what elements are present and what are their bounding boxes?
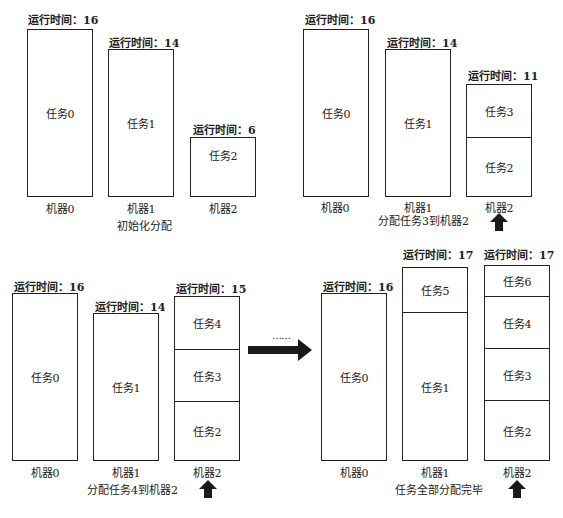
runtime-label: 运行时间：16 [28, 11, 98, 27]
machine-2-column: 任务2 [190, 137, 256, 197]
task-block: 任务1 [403, 312, 467, 460]
machine-0-column: 任务0 [303, 29, 369, 197]
task-block: 任务6 [485, 266, 549, 296]
machine-label: 机器0 [15, 464, 75, 480]
task-block: 任务2 [467, 137, 531, 196]
up-arrow-icon [508, 480, 526, 498]
panel-caption: 分配任务4到机器2 [87, 481, 178, 497]
task-block: 任务4 [175, 297, 239, 349]
machine-label: 机器1 [405, 464, 465, 480]
runtime-label: 运行时间：11 [468, 67, 538, 83]
machine-1-column: 任务1 [385, 49, 451, 197]
task-block: 任务3 [175, 349, 239, 401]
machine-2-column: 任务3 任务2 [466, 84, 532, 197]
task-block: 任务3 [467, 85, 531, 137]
runtime-label: 运行时间：16 [305, 11, 375, 27]
machine-2-column: 任务6 任务4 任务3 任务2 [484, 265, 550, 461]
task-block: 任务0 [28, 30, 92, 196]
machine-label: 机器1 [111, 200, 171, 216]
runtime-label: 运行时间：14 [387, 34, 457, 50]
runtime-label: 运行时间：17 [403, 246, 473, 262]
runtime-label: 运行时间：14 [95, 298, 165, 314]
right-arrow-icon [248, 339, 312, 361]
machine-label: 机器2 [193, 200, 253, 216]
task-block: 任务0 [13, 294, 77, 460]
runtime-label: 运行时间：6 [193, 121, 256, 137]
up-arrow-icon [490, 213, 508, 231]
panel-caption: 分配任务3到机器2 [378, 212, 469, 228]
machine-2-column: 任务4 任务3 任务2 [174, 296, 240, 461]
machine-0-column: 任务0 [12, 293, 78, 461]
panel-caption: 任务全部分配完毕 [395, 481, 483, 497]
machine-1-column: 任务1 [108, 49, 174, 197]
runtime-label: 运行时间：16 [323, 278, 393, 294]
machine-0-column: 任务0 [27, 29, 93, 197]
runtime-label: 运行时间：17 [484, 246, 554, 262]
machine-label: 机器0 [305, 199, 365, 215]
task-block: 任务5 [403, 268, 467, 312]
task-block: 任务3 [485, 348, 549, 400]
task-block: 任务1 [94, 314, 158, 460]
machine-1-column: 任务5 任务1 [402, 267, 468, 461]
machine-1-column: 任务1 [93, 313, 159, 461]
machine-label: 机器2 [487, 464, 547, 480]
machine-0-column: 任务0 [321, 293, 387, 461]
task-block: 任务2 [485, 400, 549, 460]
runtime-label: 运行时间：14 [109, 34, 179, 50]
task-block: 任务1 [109, 50, 173, 196]
runtime-label: 运行时间：15 [176, 280, 246, 296]
runtime-label: 运行时间：16 [14, 278, 84, 294]
machine-label: 机器0 [30, 200, 90, 216]
task-block: 任务0 [304, 30, 368, 196]
task-block: 任务2 [191, 138, 255, 173]
task-block: 任务4 [485, 296, 549, 348]
task-block: 任务1 [386, 50, 450, 196]
task-block: 任务0 [322, 294, 386, 460]
machine-label: 机器0 [324, 464, 384, 480]
machine-label: 机器2 [177, 464, 237, 480]
task-block: 任务2 [175, 401, 239, 460]
machine-label: 机器1 [96, 464, 156, 480]
panel-caption: 初始化分配 [117, 217, 172, 233]
up-arrow-icon [199, 480, 217, 498]
